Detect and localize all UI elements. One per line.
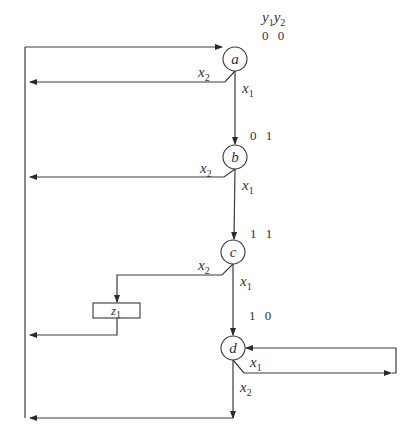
output-z1-box: z1 [93, 303, 140, 320]
state-a-label: a [231, 51, 239, 67]
state-d-code: 1 0 [249, 308, 274, 323]
b-x1-label: x1 [241, 177, 254, 196]
c-x1-label: x1 [239, 273, 252, 292]
state-b-code: 0 1 [250, 128, 275, 143]
state-c-label: c [230, 244, 237, 260]
a-x2-label: x2 [197, 64, 210, 83]
state-a-code: 0 0 [262, 28, 287, 43]
a-x1-label: x1 [241, 80, 254, 99]
d-x2-label: x2 [239, 379, 252, 398]
z1-return-edge [30, 318, 117, 335]
state-c: c [221, 240, 245, 264]
state-diagram: a y1y2 0 0 x2 x1 b 0 1 x2 x1 c 1 1 x2 z1… [0, 0, 419, 447]
d-x1-loop-back-edge [246, 348, 396, 373]
state-a: a [223, 47, 247, 71]
b-x1-edge [234, 169, 235, 239]
b-x2-label: x2 [199, 160, 212, 179]
d-x1-label: x1 [249, 354, 262, 373]
state-d: d [221, 336, 245, 360]
state-b-label: b [231, 149, 239, 165]
state-c-code: 1 1 [250, 226, 275, 241]
state-code-header: y1y2 [260, 9, 285, 28]
c-x2-edge [117, 264, 233, 302]
c-x2-label: x2 [197, 257, 210, 276]
state-d-label: d [229, 340, 237, 356]
state-b: b [223, 145, 247, 169]
